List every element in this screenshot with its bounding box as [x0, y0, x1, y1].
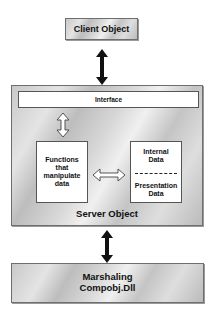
data-box: Internal Data Presentation Data: [130, 141, 182, 203]
interface-label: Interface: [95, 96, 122, 103]
internal-data-line: Internal: [131, 148, 181, 156]
presentation-data-line: Presentation: [131, 182, 181, 190]
client-object-label: Client Object: [74, 24, 130, 34]
server-object-box: Interface Functions that manipulate data…: [11, 85, 203, 226]
functions-line: Functions: [45, 156, 78, 164]
functions-box: Functions that manipulate data: [36, 141, 88, 203]
presentation-data-label: Presentation Data: [131, 182, 181, 198]
marshaling-box: Marshaling Compobj.Dll: [11, 263, 204, 303]
marshaling-line: Compobj.Dll: [80, 283, 136, 294]
server-object-label: Server Object: [12, 209, 202, 220]
functions-line: manipulate: [44, 172, 81, 180]
server-marshaling-arrow-icon: [101, 230, 113, 263]
presentation-data-line: Data: [131, 190, 181, 198]
client-server-arrow-icon: [96, 49, 108, 85]
data-divider: [135, 173, 177, 174]
interface-box: Interface: [18, 91, 199, 108]
functions-data-arrow-icon: [93, 169, 125, 181]
functions-line: that: [56, 164, 69, 172]
functions-line: data: [55, 180, 69, 188]
client-object-box: Client Object: [65, 18, 138, 40]
internal-data-label: Internal Data: [131, 148, 181, 164]
internal-data-line: Data: [131, 156, 181, 164]
interface-functions-arrow-icon: [57, 113, 69, 137]
